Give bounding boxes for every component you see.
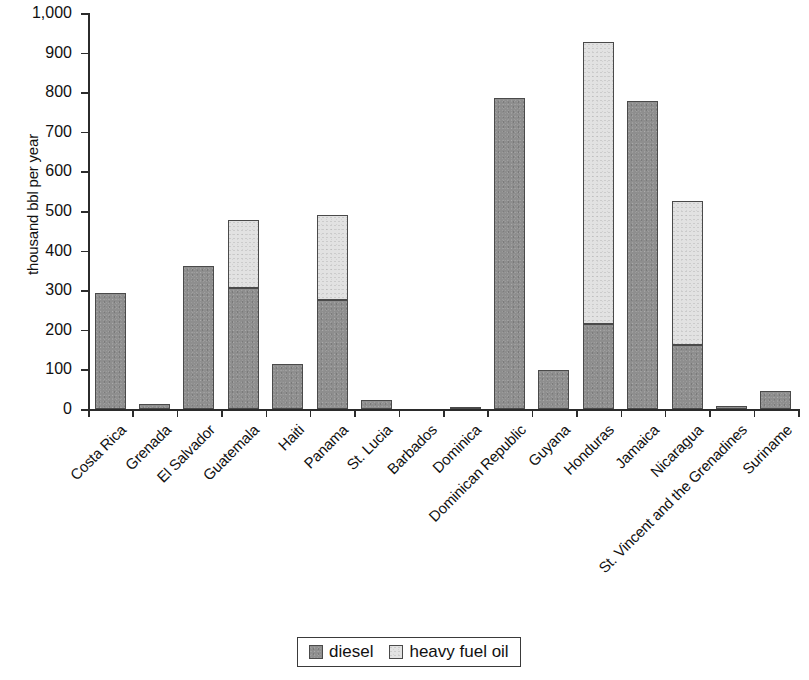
y-axis-tick-label: 1,000	[12, 5, 72, 21]
plot-area	[88, 13, 798, 409]
bar-segment-diesel	[627, 101, 658, 409]
y-axis-tick	[81, 369, 88, 371]
y-axis-tick	[81, 330, 88, 332]
y-axis-tick-label: 400	[12, 243, 72, 259]
bar-group	[494, 13, 525, 409]
legend-swatch-icon	[389, 645, 403, 659]
y-axis-tick	[81, 132, 88, 134]
y-axis-tick	[81, 53, 88, 55]
y-axis-tick-label: 700	[12, 124, 72, 140]
chart-legend: dieselheavy fuel oil	[297, 637, 521, 667]
y-axis-tick-label: 200	[12, 322, 72, 338]
bar-group	[228, 13, 259, 409]
legend-label: heavy fuel oil	[409, 643, 508, 660]
legend-swatch-icon	[309, 645, 323, 659]
bar-group	[627, 13, 658, 409]
bar-segment-diesel	[95, 293, 126, 409]
y-axis-tick	[81, 409, 88, 411]
bar-group	[716, 13, 747, 409]
x-axis-tick	[88, 409, 90, 417]
bar-group	[760, 13, 791, 409]
y-axis-tick-label: 800	[12, 84, 72, 100]
bar-group	[672, 13, 703, 409]
legend-label: diesel	[329, 643, 373, 660]
bar-group	[405, 13, 436, 409]
bar-segment-heavy-fuel-oil	[583, 42, 614, 324]
bar-group	[183, 13, 214, 409]
y-axis-tick-labels: 1,0009008007006005004003002001000	[10, 0, 72, 420]
y-axis-tick	[81, 13, 88, 15]
y-axis-line	[88, 13, 90, 409]
y-axis-tick-label: 900	[12, 45, 72, 61]
y-axis-tick-label: 300	[12, 282, 72, 298]
bar-group	[317, 13, 348, 409]
bar-group	[272, 13, 303, 409]
x-axis-label-text: Haiti	[274, 421, 307, 454]
y-axis-tick-label: 0	[12, 401, 72, 417]
bar-group	[361, 13, 392, 409]
bar-group	[139, 13, 170, 409]
bar-group	[538, 13, 569, 409]
y-axis-tick	[81, 251, 88, 253]
x-axis-label-text: Costa Rica	[67, 421, 129, 483]
bar-segment-heavy-fuel-oil	[228, 220, 259, 288]
y-axis-tick	[81, 92, 88, 94]
bar-segment-heavy-fuel-oil	[317, 215, 348, 300]
y-axis-tick-label: 500	[12, 203, 72, 219]
stacked-bar-chart: thousand bbl per year 1,0009008007006005…	[0, 0, 809, 680]
y-axis-tick-label: 600	[12, 163, 72, 179]
y-axis-tick-label: 100	[12, 361, 72, 377]
y-axis-tick	[81, 290, 88, 292]
y-axis-tick	[81, 211, 88, 213]
legend-item[interactable]: heavy fuel oil	[389, 643, 508, 660]
legend-item[interactable]: diesel	[309, 643, 373, 660]
bar-segment-diesel	[317, 300, 348, 409]
bar-group	[450, 13, 481, 409]
bar-segment-heavy-fuel-oil	[672, 201, 703, 345]
y-axis-tick	[81, 171, 88, 173]
bar-segment-diesel	[494, 98, 525, 409]
bar-group	[95, 13, 126, 409]
